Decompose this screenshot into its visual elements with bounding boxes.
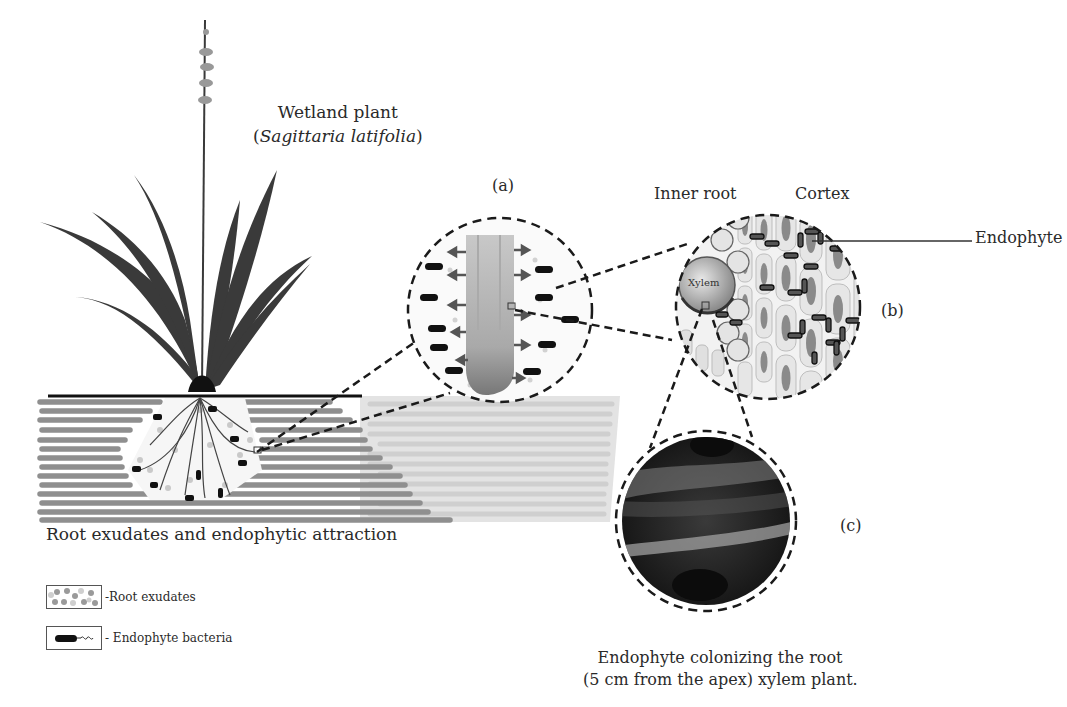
panel-c-label: (c) xyxy=(840,516,861,535)
open-paren: ( xyxy=(253,126,260,146)
endophyte-label: Endophyte xyxy=(975,228,1062,247)
legend-endophyte-bacteria-label: - Endophyte bacteria xyxy=(105,631,232,645)
plant-common-name: Wetland plant xyxy=(253,100,423,124)
legend-root-exudates-label: -Root exudates xyxy=(105,590,196,604)
panel-a-label: (a) xyxy=(492,176,514,195)
plant-title: Wetland plant (Sagittaria latifolia) xyxy=(253,100,423,148)
caption-right-line2: (5 cm from the apex) xylem plant. xyxy=(583,669,857,691)
root-exudates-swatch-icon xyxy=(46,585,102,609)
plant-scientific-name: Sagittaria latifolia xyxy=(260,126,416,146)
cortex-label: Cortex xyxy=(795,184,849,203)
panel-b-label: (b) xyxy=(881,301,904,320)
inner-root-label: Inner root xyxy=(654,184,736,203)
legend-endophyte-bacteria: - Endophyte bacteria xyxy=(46,626,232,650)
caption-endophyte-colonizing: Endophyte colonizing the root (5 cm from… xyxy=(583,647,857,691)
plant-scientific-name-line: (Sagittaria latifolia) xyxy=(253,124,423,148)
caption-root-exudates: Root exudates and endophytic attraction xyxy=(46,524,397,544)
sagittaria-plant xyxy=(40,20,312,392)
panel-b-cross-section xyxy=(676,205,972,401)
xylem-label: Xylem xyxy=(688,277,719,288)
panel-c-micrograph xyxy=(600,431,800,611)
caption-right-line1: Endophyte colonizing the root xyxy=(583,647,857,669)
panel-a-root-tip xyxy=(408,218,592,402)
legend-root-exudates: -Root exudates xyxy=(46,585,196,609)
close-paren: ) xyxy=(416,126,423,146)
endophyte-bacteria-swatch-icon xyxy=(46,626,102,650)
